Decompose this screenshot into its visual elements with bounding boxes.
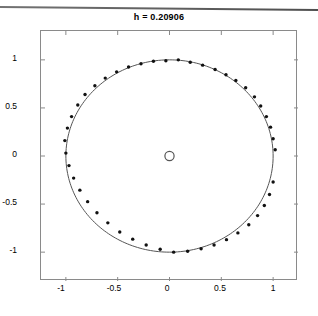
unit-circle-curve xyxy=(66,60,273,252)
xtick-label-neg1: -1 xyxy=(57,283,65,293)
ytick-label-neg05: -0.5 xyxy=(2,197,17,207)
ytick-label-neg1: -1 xyxy=(9,245,17,255)
plot-title: h = 0.20906 xyxy=(0,12,318,22)
xtick-label-05: 0.5 xyxy=(214,283,226,293)
xtick-label-0: 0 xyxy=(165,283,170,293)
xtick-label-1: 1 xyxy=(271,283,276,293)
scan-artifact-line xyxy=(0,6,318,11)
figure-canvas: h = 0.20906 1 0.5 0 -0.5 -1 -1 -0.5 0 0.… xyxy=(0,0,318,316)
ytick-label-0: 0 xyxy=(12,149,17,159)
axis-ticks xyxy=(41,31,298,281)
ytick-label-1: 1 xyxy=(12,53,17,63)
xtick-label-neg05: -0.5 xyxy=(107,283,122,293)
ytick-label-05: 0.5 xyxy=(5,101,17,111)
plot-axes xyxy=(40,30,297,280)
eigenvalue-points xyxy=(63,58,277,254)
scatter-plot-svg xyxy=(41,31,298,281)
origin-marker xyxy=(165,151,174,160)
